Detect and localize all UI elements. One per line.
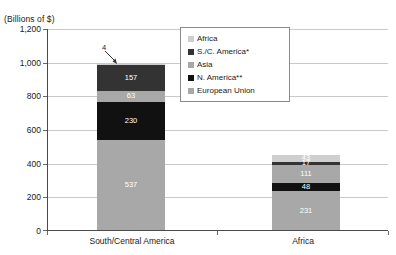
bar-segment-label-n-america: 230 <box>125 117 138 125</box>
legend-swatch-asia <box>188 62 194 68</box>
y-axis-line <box>47 29 48 231</box>
bar-segment-european-union: 231 <box>272 191 340 230</box>
legend-item-european-union[interactable]: European Union <box>188 84 284 97</box>
x-tickmark-middle <box>217 231 218 235</box>
bar-segment-sc-america: 157 <box>97 65 165 91</box>
y-axis-tick-labels: 1,200 1,000 800 600 400 200 0 <box>0 29 41 231</box>
x-tick-label-south-central-america: South/Central America <box>47 236 217 246</box>
y-tick-600: 600 <box>27 126 41 135</box>
bar-africa[interactable]: 43 17 111 48 231 <box>272 155 340 230</box>
annotation-arrow-icon <box>104 50 122 66</box>
y-tick-400: 400 <box>27 160 41 169</box>
bar-segment-label-asia: 111 <box>300 170 311 178</box>
legend-swatch-european-union <box>188 88 194 94</box>
x-tickmark-right <box>388 231 389 235</box>
legend-swatch-africa <box>188 36 194 42</box>
legend-item-africa[interactable]: Africa <box>188 32 284 45</box>
bar-segment-european-union: 537 <box>97 140 165 230</box>
bar-segment-label-european-union: 537 <box>125 181 138 189</box>
legend-item-asia[interactable]: Asia <box>188 58 284 71</box>
bar-segment-label-sc-america: 157 <box>125 74 138 82</box>
bar-segment-asia: 63 <box>97 91 165 102</box>
legend-label-africa: Africa <box>197 34 217 43</box>
bar-south-central-america[interactable]: 157 63 230 537 <box>97 64 165 230</box>
legend-item-sc-america[interactable]: S./C. America* <box>188 45 284 58</box>
bar-segment-label-asia: 63 <box>127 92 135 100</box>
y-tick-800: 800 <box>27 92 41 101</box>
legend-label-european-union: European Union <box>197 86 255 95</box>
legend-item-n-america[interactable]: N. America** <box>188 71 284 84</box>
legend-swatch-n-america <box>188 75 194 81</box>
y-tick-0: 0 <box>36 227 41 236</box>
y-tick-200: 200 <box>27 193 41 202</box>
legend-swatch-sc-america <box>188 49 194 55</box>
x-tick-label-africa: Africa <box>218 236 388 246</box>
axis-unit-label: (Billions of $) <box>4 14 55 24</box>
y-tick-1200: 1,200 <box>20 25 41 34</box>
bar-segment-asia: 111 <box>272 165 340 184</box>
bar-segment-n-america: 48 <box>272 183 340 191</box>
legend: Africa S./C. America* Asia N. America** … <box>180 27 290 102</box>
legend-label-asia: Asia <box>197 60 213 69</box>
bar-segment-n-america: 230 <box>97 102 165 141</box>
y-tick-1000: 1,000 <box>20 59 41 68</box>
x-tickmark-left <box>47 231 48 235</box>
legend-label-n-america: N. America** <box>197 73 242 82</box>
bar-segment-label-european-union: 231 <box>300 207 313 215</box>
bar-segment-label-n-america: 48 <box>302 183 310 191</box>
stacked-bar-chart: (Billions of $) 1,200 1,000 800 600 400 … <box>0 0 396 255</box>
legend-label-sc-america: S./C. America* <box>197 47 249 56</box>
